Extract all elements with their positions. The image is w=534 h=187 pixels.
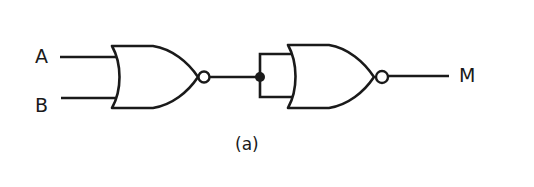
nor-gate-2-body	[288, 45, 374, 108]
input-label-b: B	[35, 96, 48, 115]
junction-dot	[255, 72, 265, 82]
nor-gate-1-body	[112, 46, 198, 108]
circuit-svg	[0, 0, 534, 187]
nor-gate-1-bubble	[199, 72, 210, 83]
output-label-m: M	[459, 66, 475, 85]
figure-caption: (a)	[235, 136, 259, 153]
nor-gate-2-bubble	[376, 71, 388, 83]
tied-inputs-bracket	[260, 54, 294, 97]
input-label-a: A	[35, 47, 48, 66]
